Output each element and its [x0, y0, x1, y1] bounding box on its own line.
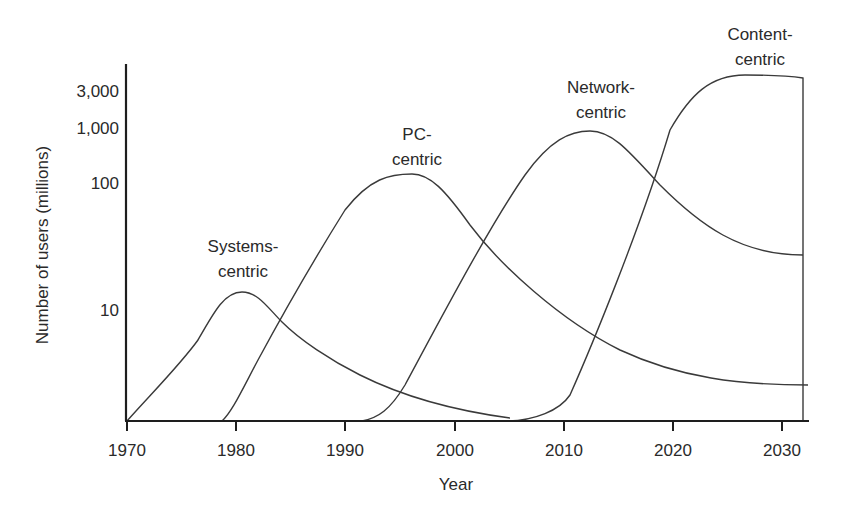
series-systems-centric-curve: [127, 292, 510, 421]
x-axis-ticks: [127, 421, 782, 431]
y-axis-title: Number of users (millions): [33, 146, 52, 344]
svg-text:centric: centric: [218, 262, 269, 281]
series-label-content-centric: Content- centric: [727, 25, 792, 69]
y-tick-label: 10: [100, 301, 119, 320]
series-pc-centric-curve: [222, 174, 808, 421]
x-tick-label: 2020: [654, 441, 692, 460]
svg-text:centric: centric: [735, 50, 786, 69]
x-tick-label: 1970: [108, 441, 146, 460]
y-axis-tick-labels: 10 100 1,000 3,000: [76, 82, 119, 320]
svg-text:centric: centric: [576, 103, 627, 122]
x-tick-label: 2010: [545, 441, 583, 460]
y-tick-label: 1,000: [76, 119, 119, 138]
x-tick-label: 1990: [326, 441, 364, 460]
x-tick-label: 1980: [217, 441, 255, 460]
y-tick-label: 3,000: [76, 82, 119, 101]
series-label-network-centric: Network- centric: [567, 78, 635, 122]
svg-text:centric: centric: [392, 150, 443, 169]
y-tick-label: 100: [91, 174, 119, 193]
chart: 1970 1980 1990 2000 2010 2020 2030 10 10…: [0, 0, 843, 519]
x-tick-label: 2000: [436, 441, 474, 460]
series-network-centric-curve: [362, 131, 803, 421]
x-axis-tick-labels: 1970 1980 1990 2000 2010 2020 2030: [108, 441, 801, 460]
svg-text:Network-: Network-: [567, 78, 635, 97]
series-content-centric-curve: [505, 75, 803, 421]
series-label-pc-centric: PC- centric: [392, 125, 443, 169]
svg-text:PC-: PC-: [402, 125, 431, 144]
svg-text:Systems-: Systems-: [208, 237, 279, 256]
x-axis-title: Year: [439, 475, 474, 494]
x-tick-label: 2030: [763, 441, 801, 460]
series-label-systems-centric: Systems- centric: [208, 237, 279, 281]
svg-text:Content-: Content-: [727, 25, 792, 44]
